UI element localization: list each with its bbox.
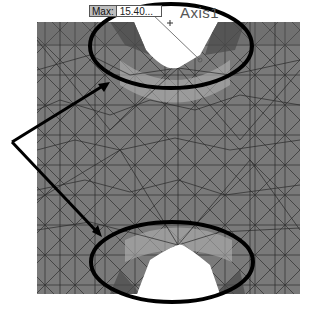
max-value: 15.40... bbox=[117, 5, 162, 17]
fea-figure: Max: 15.40... Axis1 bbox=[0, 0, 311, 309]
mesh-canvas bbox=[0, 0, 311, 309]
max-key: Max: bbox=[89, 5, 117, 17]
plate-mesh bbox=[37, 22, 300, 294]
max-value-label: Max: 15.40... bbox=[89, 5, 162, 17]
axis-label: Axis1 bbox=[180, 4, 219, 21]
